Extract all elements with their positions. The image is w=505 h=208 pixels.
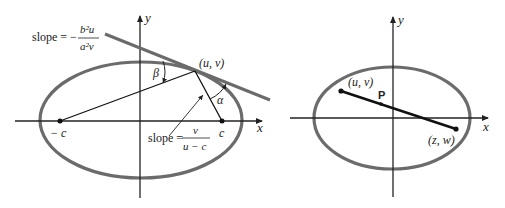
tangent-line xyxy=(105,34,270,100)
left-y-axis-label: y xyxy=(143,10,151,25)
left-ellipse-figure: y x − c c (u, v) β α slope = − b²u a²v s… xyxy=(15,10,270,198)
focus-right-point xyxy=(220,119,225,124)
point-uv xyxy=(338,88,343,93)
point-zw-label: (z, w) xyxy=(428,133,455,147)
tangent-slope-prefix: slope = − xyxy=(32,30,77,44)
left-x-axis-label: x xyxy=(256,120,263,135)
point-zw xyxy=(453,126,458,131)
tangent-slope-formula: slope = − b²u a²v xyxy=(32,23,99,52)
figure-canvas: y x − c c (u, v) β α slope = − b²u a²v s… xyxy=(0,0,505,208)
right-ellipse-figure: y x (u, v) P (z, w) xyxy=(290,12,489,197)
left-ellipse xyxy=(40,62,242,178)
angle-beta-label: β xyxy=(152,66,159,80)
point-uv-label-right: (u, v) xyxy=(348,75,373,89)
point-p-label: P xyxy=(378,89,385,101)
focal-slope-prefix: slope = xyxy=(148,131,183,145)
focal-line-left xyxy=(60,71,195,121)
chord-segment xyxy=(341,91,456,129)
tangent-slope-denominator: a²v xyxy=(80,40,94,52)
focus-left-point xyxy=(58,119,63,124)
focal-slope-denominator: u − c xyxy=(183,140,206,152)
tangent-slope-numerator: b²u xyxy=(80,23,95,35)
right-y-axis-label: y xyxy=(396,12,404,27)
point-p xyxy=(379,102,383,106)
angle-alpha-label: α xyxy=(217,93,224,107)
focus-left-label: − c xyxy=(50,126,67,140)
right-x-axis-label: x xyxy=(482,119,489,134)
slope-pointer-line xyxy=(169,95,203,136)
focal-slope-numerator: v xyxy=(193,124,198,136)
focal-slope-formula: slope = v u − c xyxy=(148,124,210,152)
point-uv-label: (u, v) xyxy=(199,56,224,70)
focus-right-label: c xyxy=(219,126,225,140)
